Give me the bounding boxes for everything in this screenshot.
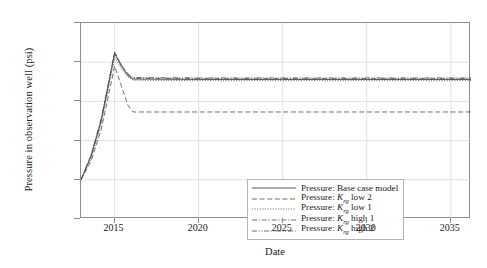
legend-line-sample (252, 204, 296, 214)
x-tick-label: 2025 (252, 222, 312, 233)
series-line (81, 54, 471, 180)
x-axis-title: Date (80, 246, 470, 257)
legend-line-sample (252, 194, 296, 204)
x-tick-label: 2015 (84, 222, 144, 233)
series-line (81, 52, 471, 180)
x-tick-label: 2020 (168, 222, 228, 233)
x-tick-label: 2030 (336, 222, 396, 233)
chart-figure: Pressure in observation well (psi) 4,300… (0, 0, 487, 268)
series-line (81, 53, 471, 180)
series-line (81, 58, 471, 180)
x-tick-label: 2035 (420, 222, 480, 233)
y-tick-mark (74, 218, 80, 219)
legend-line-sample (252, 183, 296, 193)
plot-area: Pressure: Base case modelPressure: Krg l… (80, 22, 470, 218)
y-axis-title: Pressure in observation well (psi) (23, 20, 34, 220)
series-line (81, 66, 471, 180)
